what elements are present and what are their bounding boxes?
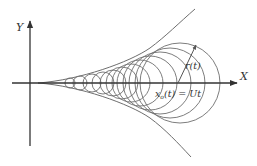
radius-label: r(t) <box>185 60 201 71</box>
y-axis-label: Y <box>16 21 25 34</box>
upper-envelope-curve <box>38 9 195 83</box>
x-axis-label: X <box>239 70 249 83</box>
expanding-circles-diagram: X Y r(t) xo(t) = Ut <box>0 0 257 166</box>
